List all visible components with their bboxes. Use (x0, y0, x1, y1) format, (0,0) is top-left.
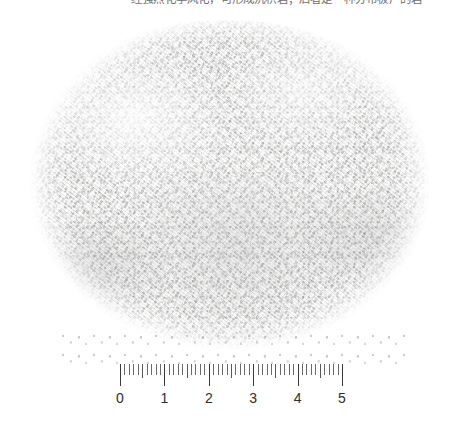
ruler-tick-minor (329, 364, 330, 375)
ruler-tick-minor (156, 364, 157, 375)
ruler-label-1: 1 (160, 388, 168, 408)
ruler-tick-minor (222, 364, 223, 375)
ruler-tick-minor (306, 364, 307, 375)
powder-sample-heap (28, 20, 432, 358)
ruler-tick-minor (311, 364, 312, 375)
caption-strip: 经强烈化学风化，可形成沉积岩；后者是一种分布极广的岩 (0, 0, 472, 13)
ruler-tick-minor (227, 364, 228, 375)
ruler-tick-major (209, 364, 210, 386)
ruler-tick-minor (200, 364, 201, 375)
ruler-tick-minor (129, 364, 130, 375)
ruler-tick-minor (138, 364, 139, 375)
ruler-tick-major (253, 364, 254, 386)
ruler-tick-major (342, 364, 343, 386)
caption-text: 经强烈化学风化，可形成沉积岩；后者是一种分布极广的岩 (131, 0, 422, 6)
ruler-tick-minor (338, 364, 339, 375)
ruler-tick-minor (267, 364, 268, 375)
ruler-label-3: 3 (249, 388, 257, 408)
ruler-tick-minor (195, 364, 196, 375)
ruler-tick-minor (320, 364, 321, 378)
ruler-tick-marks (120, 364, 342, 388)
ruler-tick-minor (218, 364, 219, 375)
ruler-tick-minor (169, 364, 170, 375)
ruler-tick-minor (271, 364, 272, 375)
ruler-tick-minor (324, 364, 325, 375)
ruler-tick-minor (333, 364, 334, 375)
ruler-tick-minor (191, 364, 192, 375)
sample-photograph (0, 14, 472, 362)
ruler-tick-minor (124, 364, 125, 375)
ruler-tick-minor (133, 364, 134, 375)
powder-shading-layer (28, 20, 432, 358)
ruler-tick-minor (280, 364, 281, 375)
centimeter-ruler: 012345 (120, 364, 342, 420)
ruler-tick-minor (147, 364, 148, 375)
ruler-label-5: 5 (338, 388, 346, 408)
ruler-tick-minor (182, 364, 183, 375)
ruler-label-4: 4 (294, 388, 302, 408)
ruler-tick-minor (204, 364, 205, 375)
ruler-tick-minor (315, 364, 316, 375)
ruler-tick-minor (293, 364, 294, 375)
ruler-tick-major (298, 364, 299, 386)
ruler-tick-minor (231, 364, 232, 378)
ruler-tick-minor (160, 364, 161, 375)
ruler-tick-minor (275, 364, 276, 378)
ruler-tick-minor (142, 364, 143, 378)
ruler-label-2: 2 (205, 388, 213, 408)
ruler-tick-minor (235, 364, 236, 375)
ruler-tick-minor (240, 364, 241, 375)
ruler-tick-minor (244, 364, 245, 375)
ruler-tick-minor (249, 364, 250, 375)
ruler-number-labels: 012345 (120, 388, 342, 412)
ruler-tick-minor (258, 364, 259, 375)
ruler-tick-minor (178, 364, 179, 375)
ruler-tick-minor (187, 364, 188, 378)
ruler-tick-minor (173, 364, 174, 375)
ruler-tick-minor (262, 364, 263, 375)
ruler-tick-major (164, 364, 165, 386)
ruler-tick-minor (289, 364, 290, 375)
ruler-tick-minor (302, 364, 303, 375)
ruler-tick-minor (284, 364, 285, 375)
ruler-label-0: 0 (116, 388, 124, 408)
ruler-tick-minor (151, 364, 152, 375)
ruler-tick-major (120, 364, 121, 386)
ruler-tick-minor (213, 364, 214, 375)
